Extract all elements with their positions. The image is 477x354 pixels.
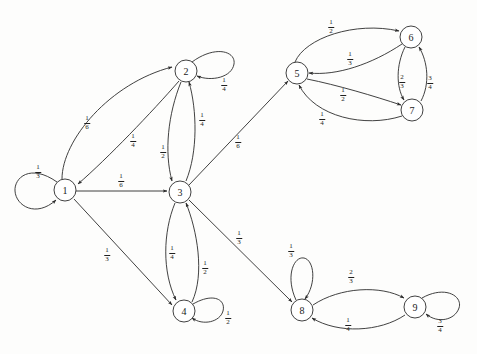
- node-8-label: 8: [300, 305, 305, 316]
- node-9-label: 9: [413, 302, 418, 313]
- fraction-denominator: 3: [399, 83, 405, 91]
- fraction-denominator: 2: [328, 28, 334, 36]
- edge-layer: [15, 28, 460, 329]
- node-3[interactable]: 3: [169, 181, 191, 203]
- edge-label-7-5: 14: [319, 111, 325, 127]
- edge-label-8-9: 23: [348, 269, 354, 285]
- edge-label-1-1: 13: [35, 164, 41, 180]
- edge-label-3-4: 14: [169, 245, 175, 261]
- fraction-denominator: 3: [104, 256, 110, 264]
- edge-label-3-5: 16: [235, 134, 241, 150]
- fraction-denominator: 3: [348, 278, 354, 286]
- node-5[interactable]: 5: [286, 62, 308, 84]
- edge-9-8: [312, 315, 405, 329]
- fraction-denominator: 4: [221, 86, 227, 94]
- node-2[interactable]: 2: [175, 60, 197, 82]
- markov-chain-diagram: 1 2 3 4 5 6 7: [0, 0, 477, 354]
- edge-label-6-7: 23: [399, 74, 405, 90]
- fraction-denominator: 3: [347, 60, 353, 68]
- fraction-denominator: 3: [35, 173, 41, 181]
- edge-8-9: [313, 290, 404, 305]
- node-3-label: 3: [178, 187, 183, 198]
- edge-2-1: [78, 81, 179, 184]
- node-9[interactable]: 9: [404, 296, 426, 318]
- edge-label-6-5: 13: [347, 51, 353, 67]
- edge-label-8-8: 13: [288, 243, 294, 259]
- edge-6-5: [309, 44, 402, 73]
- edge-label-2-3: 12: [160, 144, 166, 160]
- fraction-denominator: 6: [84, 124, 90, 132]
- edge-4-4: [192, 298, 223, 322]
- edge-3-8: [189, 200, 292, 302]
- edge-1-4: [74, 199, 172, 305]
- node-6-label: 6: [409, 32, 414, 43]
- edge-7-6: [419, 47, 427, 101]
- node-5-label: 5: [295, 68, 300, 79]
- fraction-denominator: 4: [130, 142, 136, 150]
- edge-3-2: [186, 82, 195, 181]
- edge-label-1-2: 16: [84, 115, 90, 131]
- edge-label-3-8: 13: [236, 230, 242, 246]
- fraction-denominator: 3: [288, 252, 294, 260]
- fraction-denominator: 4: [437, 327, 443, 335]
- node-1[interactable]: 1: [54, 179, 76, 201]
- graph-canvas: 1 2 3 4 5 6 7: [0, 0, 477, 354]
- fraction-denominator: 2: [160, 153, 166, 161]
- node-7-label: 7: [410, 105, 415, 116]
- fraction-denominator: 4: [169, 254, 175, 262]
- node-4-label: 4: [182, 306, 187, 317]
- edge-2-2: [192, 52, 234, 79]
- fraction-denominator: 2: [202, 269, 208, 277]
- fraction-denominator: 4: [319, 120, 325, 128]
- edge-label-9-8: 14: [345, 317, 351, 333]
- fraction-denominator: 4: [345, 326, 351, 334]
- edge-label-2-1: 14: [130, 133, 136, 149]
- node-1-label: 1: [63, 185, 68, 196]
- fraction-denominator: 2: [225, 319, 231, 327]
- edge-label-4-3: 12: [202, 260, 208, 276]
- fraction-denominator: 6: [235, 143, 241, 151]
- edge-7-5: [299, 85, 402, 121]
- fraction-denominator: 2: [340, 96, 346, 104]
- edge-5-7: [307, 79, 401, 105]
- node-2-label: 2: [184, 66, 189, 77]
- edge-label-5-6: 12: [328, 19, 334, 35]
- edge-label-7-6: 34: [427, 75, 433, 91]
- node-4[interactable]: 4: [173, 300, 195, 322]
- edge-label-4-4: 12: [225, 310, 231, 326]
- node-8[interactable]: 8: [291, 299, 313, 321]
- edge-8-8: [291, 258, 313, 300]
- edge-4-3: [186, 203, 199, 302]
- edge-label-9-9: 34: [437, 318, 443, 334]
- fraction-denominator: 4: [427, 84, 433, 92]
- edge-2-3: [168, 82, 181, 181]
- fraction-denominator: 6: [118, 182, 124, 190]
- fraction-denominator: 3: [236, 239, 242, 247]
- edge-1-2: [62, 67, 172, 179]
- edge-label-1-3: 16: [118, 173, 124, 189]
- node-6[interactable]: 6: [400, 26, 422, 48]
- fraction-denominator: 4: [199, 121, 205, 129]
- edge-label-5-7: 12: [340, 87, 346, 103]
- node-7[interactable]: 7: [401, 99, 423, 121]
- edge-9-9: [422, 292, 460, 320]
- edge-label-1-4: 13: [104, 247, 110, 263]
- node-layer: 1 2 3 4 5 6 7: [54, 26, 426, 322]
- edge-label-2-2: 14: [221, 77, 227, 93]
- edge-label-3-2: 14: [199, 112, 205, 128]
